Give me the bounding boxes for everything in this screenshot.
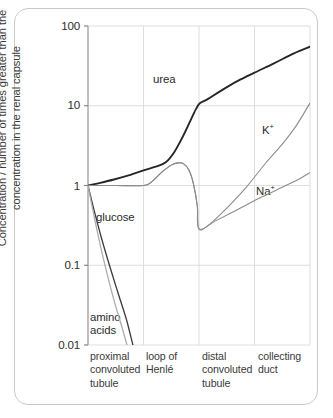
series-line-glucose [88,186,139,356]
axis-ticks [84,26,88,345]
chart-plot [0,0,333,418]
nephron-concentration-figure: Concentration / number of times greater … [0,0,333,418]
